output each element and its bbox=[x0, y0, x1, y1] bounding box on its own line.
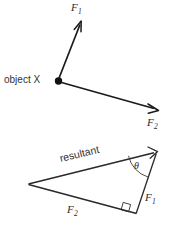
force-f2-triangle-symbol: F bbox=[67, 203, 74, 215]
triangle-side-f2 bbox=[29, 185, 137, 214]
force-f2-triangle-subscript: 2 bbox=[74, 209, 78, 218]
force-f1-triangle-symbol: F bbox=[145, 191, 152, 203]
vector-f1-shaft bbox=[59, 25, 81, 80]
vector-f2-shaft bbox=[62, 83, 155, 109]
vector-diagram-figure: object X F1 F2 resultant θ F1 F2 bbox=[0, 0, 179, 229]
force-f2-top-label: F2 bbox=[147, 117, 157, 128]
force-f2-top-subscript: 2 bbox=[154, 122, 158, 131]
force-f1-top-subscript: 1 bbox=[78, 7, 82, 16]
force-f1-triangle-label: F1 bbox=[145, 192, 155, 203]
top-diagram-group bbox=[55, 21, 159, 113]
force-f2-top-symbol: F bbox=[147, 116, 154, 128]
force-f1-triangle-subscript: 1 bbox=[152, 197, 156, 206]
force-f1-top-label: F1 bbox=[71, 2, 81, 13]
force-f2-triangle-label: F2 bbox=[67, 204, 77, 215]
object-x-point bbox=[55, 77, 62, 84]
force-f1-top-symbol: F bbox=[71, 1, 78, 13]
object-x-label: object X bbox=[4, 75, 40, 85]
theta-angle-label: θ bbox=[134, 161, 139, 171]
bottom-triangle-group bbox=[29, 147, 158, 214]
